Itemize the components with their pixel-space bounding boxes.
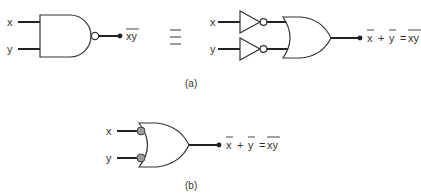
term-x: x	[226, 139, 232, 151]
logic-diagram: x y xy x y x + y	[0, 0, 421, 193]
plus-sign: +	[378, 32, 384, 44]
input-x-label: x	[210, 16, 216, 28]
inversion-bubble-icon	[137, 127, 145, 135]
input-y-label: y	[210, 43, 216, 55]
inversion-bubble-icon	[137, 154, 145, 162]
nand-gate-icon	[40, 15, 91, 57]
bubbled-or-group: x y x + y = xy	[106, 123, 280, 167]
inversion-bubble-icon	[260, 19, 267, 26]
input-y-label: y	[7, 43, 13, 55]
term-x: x	[367, 32, 373, 44]
inversion-bubble-icon	[260, 46, 267, 53]
equals-sign: =	[259, 139, 265, 151]
caption-a: (a)	[185, 78, 197, 89]
input-x-label: x	[7, 16, 13, 28]
output-terminal-dot-icon	[118, 34, 123, 39]
or-gate-icon	[283, 17, 331, 58]
result-xy: xy	[408, 32, 420, 44]
inverter-or-group: x y x + y = xy	[210, 11, 421, 60]
equivalence-symbol-icon	[170, 30, 181, 44]
input-y-label: y	[106, 152, 112, 164]
term-y: y	[389, 32, 395, 44]
nand-gate-group: x y xy	[7, 15, 139, 57]
inverter-y-icon	[240, 38, 260, 60]
input-x-label: x	[106, 125, 112, 137]
result-xy: xy	[267, 139, 279, 151]
term-y: y	[248, 139, 254, 151]
equals-sign: =	[400, 32, 406, 44]
plus-sign: +	[237, 139, 243, 151]
caption-b: (b)	[185, 180, 197, 191]
inverter-x-icon	[240, 11, 260, 33]
output-expression: x + y = xy	[367, 30, 421, 44]
output-terminal-dot-icon	[358, 36, 363, 41]
inversion-bubble-icon	[91, 32, 98, 39]
output-label: xy	[126, 30, 138, 42]
output-expression: x + y = xy	[226, 137, 280, 151]
output-terminal-dot-icon	[217, 143, 222, 148]
or-gate-icon	[139, 123, 189, 167]
